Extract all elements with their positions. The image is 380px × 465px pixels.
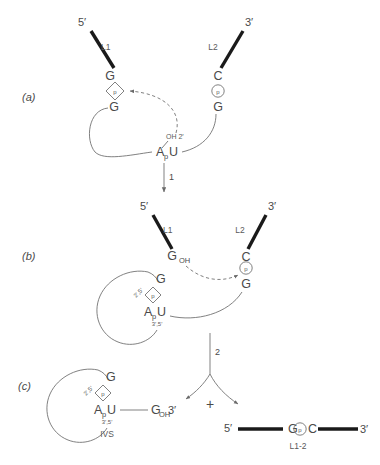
panel-a-attack-arrow bbox=[130, 91, 177, 133]
panel-b-linkage-25: 2′,5′ bbox=[132, 286, 144, 298]
panel-c-label: (c) bbox=[18, 380, 31, 392]
panel-c-product-five-prime: 5′ bbox=[224, 422, 232, 434]
panel-b-right-phosphate-label: p bbox=[244, 266, 248, 272]
panel-b-attack-arrow bbox=[186, 266, 238, 279]
panel-b-right-base-bottom: G bbox=[241, 277, 251, 291]
panel-a-five-prime-label: 5′ bbox=[78, 16, 86, 28]
panel-c-product-arrow-right bbox=[210, 374, 238, 404]
panel-c-product-phosphate-label: p bbox=[298, 427, 302, 433]
panel-c-lariat-base: G bbox=[106, 370, 116, 384]
panel-a-exon-l2 bbox=[221, 31, 243, 68]
panel-b-exon1-name: L1 bbox=[163, 225, 173, 235]
panel-b-five-prime-label: 5′ bbox=[140, 200, 148, 212]
panel-b-lariat-phosphate-label: p bbox=[151, 293, 155, 299]
panel-a-intron-left-loop bbox=[89, 108, 152, 157]
splicing-mechanism-figure: (a) 5′ L1 G p G 3′ L2 C p G A p U OH 2′ bbox=[0, 0, 380, 465]
panel-c-linkage-35: 3′,5′ bbox=[102, 419, 113, 425]
panel-b-three-prime-label: 3′ bbox=[268, 200, 276, 212]
panel-b-branch-u: U bbox=[157, 305, 166, 319]
panel-a: (a) 5′ L1 G p G 3′ L2 C p G A p U OH 2′ bbox=[22, 16, 253, 192]
panel-c: (c) G p 2′,5′ A p U 3′,5′ IVS G OH 3′ + … bbox=[18, 369, 368, 451]
panel-a-branch-p: p bbox=[164, 152, 168, 161]
panel-b: (b) 5′ L1 G OH 3′ L2 C p G G p 2′,5′ A p… bbox=[22, 200, 276, 374]
panel-c-branch-p: p bbox=[102, 410, 106, 419]
panel-c-branch-u: U bbox=[107, 403, 116, 417]
panel-b-exon-l2 bbox=[248, 215, 266, 249]
panel-b-intron-tail bbox=[170, 292, 242, 318]
panel-a-branch-u: U bbox=[169, 145, 178, 159]
panel-a-hydroxyl-label: OH 2′ bbox=[166, 133, 184, 140]
panel-a-right-base-top: C bbox=[213, 69, 222, 83]
panel-a-intron-right-strand bbox=[182, 114, 216, 152]
panel-c-product-name: L1-2 bbox=[289, 441, 306, 451]
panel-a-left-phosphate-label: p bbox=[113, 89, 117, 95]
panel-a-left-base-top: G bbox=[105, 69, 115, 83]
panel-a-three-prime-label: 3′ bbox=[245, 16, 253, 28]
panel-a-exon2-name: L2 bbox=[208, 42, 218, 52]
panel-a-label: (a) bbox=[22, 91, 36, 103]
panel-a-right-base-bottom: G bbox=[213, 100, 223, 114]
panel-b-lariat-base: G bbox=[156, 272, 166, 286]
panel-a-right-phosphate-label: p bbox=[216, 89, 220, 95]
panel-a-left-base-bottom: G bbox=[109, 100, 119, 114]
panel-b-left-base-sub: OH bbox=[179, 256, 190, 265]
panel-a-step-label: 1 bbox=[169, 172, 174, 182]
panel-c-tail-three-prime: 3′ bbox=[168, 404, 176, 416]
panel-b-left-base: G bbox=[167, 249, 177, 263]
panel-c-product-base-right: C bbox=[308, 422, 317, 436]
panel-a-exon1-name: L1 bbox=[101, 42, 111, 52]
panel-b-exon2-name: L2 bbox=[235, 225, 245, 235]
panel-b-linkage-35: 3′,5′ bbox=[152, 321, 163, 327]
panel-b-step-label: 2 bbox=[215, 347, 220, 357]
panel-c-plus-sign: + bbox=[206, 396, 214, 412]
figure-svg: (a) 5′ L1 G p G 3′ L2 C p G A p U OH 2′ bbox=[0, 0, 380, 465]
panel-b-branch-p: p bbox=[152, 312, 156, 321]
panel-b-label: (b) bbox=[22, 250, 36, 262]
panel-c-ivs-label: IVS bbox=[100, 429, 114, 439]
panel-c-lariat-phosphate-label: p bbox=[101, 391, 105, 397]
panel-c-linkage-25: 2′,5′ bbox=[82, 384, 94, 396]
panel-c-product-three-prime: 3′ bbox=[360, 423, 368, 435]
